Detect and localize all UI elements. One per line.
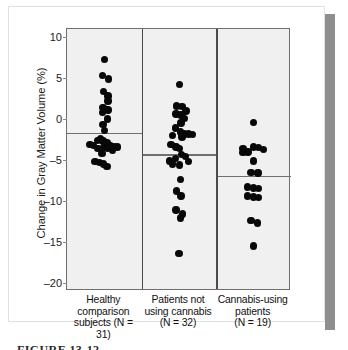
data-point xyxy=(101,56,108,63)
x-group-label-healthy-comparison-subjects: Healthycomparisonsubjects (N = 31) xyxy=(66,294,141,340)
data-point xyxy=(185,158,192,165)
x-group-label-line: Cannabis-using xyxy=(215,294,290,306)
y-axis-title: Change in Gray Matter Volume (%) xyxy=(35,38,47,268)
data-point xyxy=(103,163,110,170)
figure-card: Change in Gray Matter Volume (%) 1050–5–… xyxy=(8,6,325,322)
data-point xyxy=(176,161,183,168)
figure-caption-cutoff: FIGURE 13-12 xyxy=(17,344,99,350)
x-group-label-line: patients xyxy=(215,306,290,318)
y-tick-label: 10 xyxy=(50,31,62,43)
data-point xyxy=(239,145,246,152)
y-tick-label: 5 xyxy=(56,72,62,84)
x-group-label-line: Patients not xyxy=(141,294,216,306)
data-point xyxy=(177,192,184,199)
data-point xyxy=(255,185,262,192)
data-point xyxy=(178,133,185,140)
y-tick-label: –10 xyxy=(44,195,62,207)
data-point xyxy=(177,214,184,221)
data-point xyxy=(250,119,257,126)
panel-divider xyxy=(142,29,143,289)
data-point xyxy=(255,194,262,201)
data-point xyxy=(250,157,257,164)
data-point xyxy=(109,146,116,153)
y-tick-label: –20 xyxy=(44,277,62,289)
x-group-label-line: using cannabis xyxy=(141,306,216,318)
x-group-label-line: (N = 19) xyxy=(215,317,290,329)
x-group-label-line: comparison xyxy=(66,306,141,318)
data-point xyxy=(176,81,183,88)
x-group-label-cannabis-using-patients: Cannabis-usingpatients(N = 19) xyxy=(215,294,290,340)
data-point xyxy=(260,146,267,153)
x-group-label-patients-not-using-cannabis: Patients notusing cannabis(N = 32) xyxy=(141,294,216,340)
data-point xyxy=(175,250,182,257)
data-point xyxy=(254,219,261,226)
scatter-plot-area: 1050–5–10–15–20 xyxy=(66,28,290,290)
group-panel-cannabis-using-patients xyxy=(216,29,291,289)
data-point xyxy=(169,132,176,139)
y-tick-label: 0 xyxy=(56,113,62,125)
figure-root: Change in Gray Matter Volume (%) 1050–5–… xyxy=(0,0,348,350)
data-point xyxy=(254,169,261,176)
x-group-label-line: subjects (N = 31) xyxy=(66,317,141,340)
mean-line-cannabis-using-patients xyxy=(216,176,291,177)
card-shadow-right xyxy=(325,14,335,330)
data-point xyxy=(98,150,105,157)
y-tick-label: –15 xyxy=(44,236,62,248)
x-axis-group-labels: Healthycomparisonsubjects (N = 31)Patien… xyxy=(66,294,290,340)
data-point xyxy=(250,242,257,249)
y-tick-label: –5 xyxy=(50,154,62,166)
panel-divider xyxy=(216,29,217,289)
x-group-label-line: Healthy xyxy=(66,294,141,306)
x-group-label-line: (N = 32) xyxy=(141,317,216,329)
data-point xyxy=(105,75,112,82)
data-point xyxy=(177,176,184,183)
group-panel-patients-not-using-cannabis xyxy=(142,29,217,289)
group-panel-healthy-comparison-subjects xyxy=(67,29,142,289)
data-point xyxy=(189,131,196,138)
